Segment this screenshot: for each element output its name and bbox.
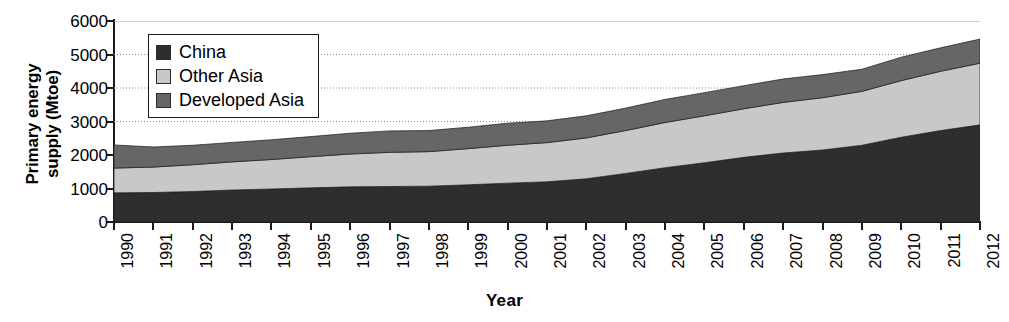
y-tick-mark	[107, 20, 114, 22]
x-tick-mark	[389, 223, 391, 230]
x-tick-mark	[940, 223, 942, 230]
x-tick-label: 2003	[632, 233, 648, 285]
y-tick-mark	[107, 87, 114, 89]
x-tick-mark	[979, 223, 981, 230]
y-tick-label: 4000	[70, 80, 108, 97]
x-axis-title: Year	[0, 291, 1009, 311]
x-tick-mark	[113, 223, 115, 230]
x-tick-label: 1998	[435, 233, 451, 285]
legend-item-developed-asia[interactable]: Developed Asia	[156, 88, 304, 112]
x-tick-label: 2012	[986, 233, 1002, 285]
x-tick-label: 2009	[868, 233, 884, 285]
x-tick-label: 1999	[474, 233, 490, 285]
x-tick-mark	[703, 223, 705, 230]
chart-legend: China Other Asia Developed Asia	[148, 34, 319, 118]
y-tick-label: 6000	[70, 13, 108, 30]
y-tick-mark	[107, 154, 114, 156]
x-tick-label: 2005	[710, 233, 726, 285]
x-tick-label: 1994	[277, 233, 293, 285]
x-tick-mark	[270, 223, 272, 230]
y-tick-label: 2000	[70, 147, 108, 164]
x-tick-mark	[822, 223, 824, 230]
x-tick-mark	[900, 223, 902, 230]
x-tick-label: 2002	[592, 233, 608, 285]
x-tick-label: 2006	[750, 233, 766, 285]
x-tick-label: 1992	[199, 233, 215, 285]
y-tick-mark	[107, 121, 114, 123]
x-tick-label: 1997	[396, 233, 412, 285]
legend-label-china: China	[179, 43, 226, 61]
x-tick-mark	[585, 223, 587, 230]
x-tick-label: 2007	[789, 233, 805, 285]
y-tick-label: 5000	[70, 46, 108, 63]
x-tick-label: 1991	[159, 233, 175, 285]
x-tick-mark	[507, 223, 509, 230]
legend-swatch-other-asia	[156, 69, 171, 84]
y-tick-label: 3000	[70, 113, 108, 130]
x-tick-label: 2008	[829, 233, 845, 285]
legend-swatch-developed-asia	[156, 93, 171, 108]
x-tick-label: 2011	[947, 233, 963, 285]
stacked-area-chart: Primary energy supply (Mtoe) 60005000400…	[0, 0, 1009, 322]
x-tick-label: 2001	[553, 233, 569, 285]
x-tick-label: 1996	[356, 233, 372, 285]
legend-item-china[interactable]: China	[156, 40, 304, 64]
x-tick-label: 2010	[907, 233, 923, 285]
x-tick-mark	[152, 223, 154, 230]
x-tick-mark	[743, 223, 745, 230]
legend-item-other-asia[interactable]: Other Asia	[156, 64, 304, 88]
x-tick-mark	[782, 223, 784, 230]
x-tick-mark	[192, 223, 194, 230]
x-tick-mark	[310, 223, 312, 230]
x-tick-mark	[546, 223, 548, 230]
legend-label-other-asia: Other Asia	[179, 67, 263, 85]
x-tick-mark	[467, 223, 469, 230]
legend-swatch-china	[156, 45, 171, 60]
y-tick-label: 1000	[70, 180, 108, 197]
x-tick-mark	[861, 223, 863, 230]
x-tick-label: 1993	[238, 233, 254, 285]
x-tick-label: 1990	[120, 233, 136, 285]
legend-label-developed-asia: Developed Asia	[179, 91, 304, 109]
y-axis-tick-labels: 6000500040003000200010000	[58, 21, 108, 222]
x-tick-label: 1995	[317, 233, 333, 285]
y-tick-mark	[107, 188, 114, 190]
x-tick-mark	[664, 223, 666, 230]
y-tick-mark	[107, 221, 114, 223]
x-tick-mark	[625, 223, 627, 230]
x-tick-label: 2004	[671, 233, 687, 285]
x-tick-mark	[231, 223, 233, 230]
x-tick-label: 2000	[514, 233, 530, 285]
x-tick-mark	[428, 223, 430, 230]
x-tick-mark	[349, 223, 351, 230]
y-tick-mark	[107, 54, 114, 56]
